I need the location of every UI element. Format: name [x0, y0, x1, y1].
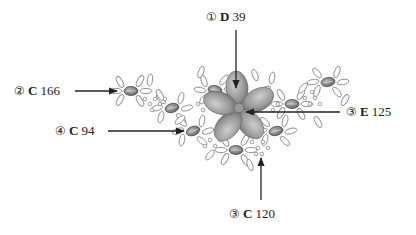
leaf-outline: [147, 74, 154, 87]
leaf-outline: [115, 76, 126, 89]
leaf-outline: [115, 94, 126, 107]
leaf-outline: [194, 86, 207, 93]
small-dot: [260, 152, 264, 156]
callout-value: 125: [372, 104, 392, 119]
leaf-outline: [246, 158, 255, 171]
small-dot: [308, 102, 312, 106]
callout-marker: ③: [229, 207, 240, 221]
leaf-outline: [201, 127, 214, 136]
callout-letter: D: [220, 9, 229, 24]
leaf-outline: [337, 78, 350, 85]
leaf-outline: [311, 67, 323, 80]
callout-value: 166: [40, 83, 60, 98]
callout-marker: ①: [206, 10, 217, 24]
callout-marker: ③: [346, 105, 357, 119]
callout-bottom: ③C120: [229, 207, 275, 220]
leaf-outline: [331, 86, 343, 99]
leaf-outline: [313, 116, 324, 129]
callout-upper-left: ②C166: [14, 84, 60, 97]
leaf-outline: [135, 95, 146, 108]
small-dot: [148, 102, 152, 106]
callout-value: 120: [255, 206, 275, 221]
callout-letter: C: [69, 123, 78, 138]
leaf-outline: [157, 111, 165, 124]
small-dot: [271, 108, 275, 112]
callout-top: ①D39: [206, 10, 245, 23]
leaf-outline: [268, 72, 275, 85]
small-dot: [153, 97, 157, 101]
small-dot: [163, 97, 167, 101]
small-dot: [303, 96, 307, 100]
callout-value: 39: [232, 9, 245, 24]
leaf-outline: [178, 134, 185, 147]
flower-center: [234, 103, 244, 113]
leaf-outline: [307, 78, 320, 85]
leaf-outline: [296, 108, 307, 121]
small-dot: [310, 90, 314, 94]
leaf-outline: [177, 92, 185, 105]
small-dot: [203, 144, 207, 148]
small-dot: [196, 102, 200, 106]
leaf-outline: [333, 65, 342, 78]
leaf-outline: [251, 68, 260, 81]
leaf-outline: [198, 115, 205, 128]
small-dot: [313, 96, 317, 100]
callout-lower-left: ④C94: [55, 124, 94, 137]
small-dot: [213, 144, 217, 148]
small-dot: [208, 138, 212, 142]
leaf-outline: [204, 149, 216, 162]
callout-value: 94: [81, 123, 94, 138]
leaf-outline: [140, 88, 152, 93]
small-dot: [158, 102, 162, 106]
small-dot: [276, 102, 280, 106]
callout-letter: E: [360, 104, 369, 119]
leaf-outline: [181, 104, 194, 112]
leaf-outline: [215, 147, 227, 152]
leaf-outline: [276, 89, 287, 102]
small-dot: [150, 108, 154, 112]
callout-letter: C: [28, 83, 37, 98]
leaf-outline: [135, 75, 146, 88]
small-dot: [261, 140, 265, 144]
small-dot: [254, 152, 258, 156]
small-dot: [318, 102, 322, 106]
leaf-outline: [220, 153, 231, 166]
small-dot: [143, 97, 147, 101]
small-dot: [201, 108, 205, 112]
leaf-outline: [285, 127, 298, 135]
leaf-outline: [245, 147, 257, 152]
callout-marker: ②: [14, 84, 25, 98]
callout-right: ③E125: [346, 105, 391, 118]
small-dot: [266, 146, 270, 150]
small-dot: [256, 146, 260, 150]
small-dot: [250, 140, 254, 144]
callout-marker: ④: [55, 124, 66, 138]
callout-letter: C: [243, 206, 252, 221]
leaf-outline: [279, 135, 291, 147]
